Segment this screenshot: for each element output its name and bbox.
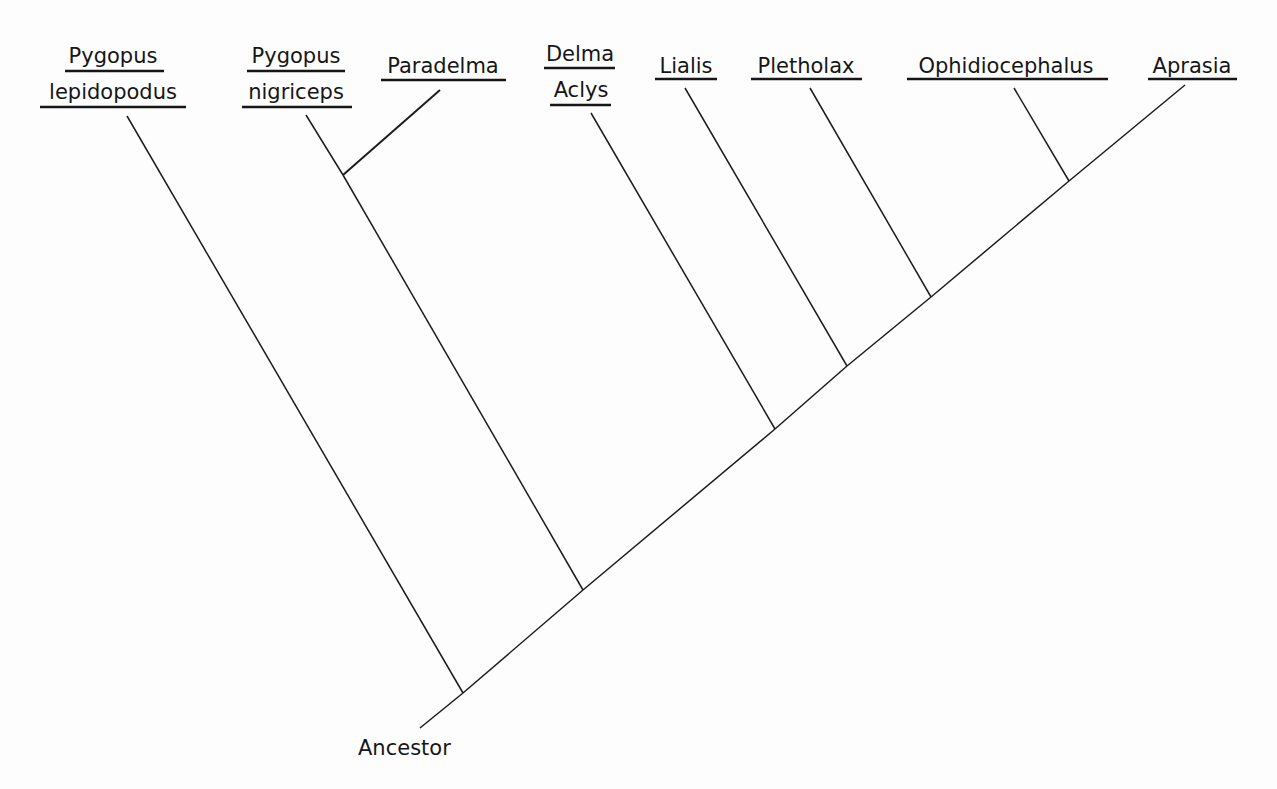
branch-paradelma: [343, 90, 440, 175]
branch-spine-2: [583, 429, 775, 590]
branch-spine-5: [931, 181, 1069, 297]
branch-nigriceps-paradelma-stem: [343, 175, 583, 590]
taxon-label-paradelma: Paradelma: [381, 54, 506, 80]
branch-lialis: [685, 88, 847, 366]
taxon-label-pygopus-nigriceps: Pygopus nigriceps: [242, 44, 352, 107]
taxon-label-delma-aclys: Delma Aclys: [544, 42, 615, 105]
taxon-label-line: Lialis: [659, 54, 712, 78]
taxon-label-line: Pletholax: [758, 54, 855, 78]
taxon-label-aprasia: Aprasia: [1148, 54, 1237, 79]
cladogram-svg: Pygopus lepidopodus Pygopus nigriceps Pa…: [0, 0, 1277, 789]
taxon-label-pygopus-lepidopodus: Pygopus lepidopodus: [40, 44, 186, 107]
branch-aprasia: [1069, 85, 1185, 181]
taxon-label-line: Pygopus: [252, 44, 341, 68]
branch-pletholax: [810, 88, 931, 297]
branch-pygopus-nigriceps: [306, 115, 343, 175]
taxon-label-lialis: Lialis: [655, 54, 717, 79]
branch-spine-3: [775, 366, 847, 429]
branch-ophidiocephalus: [1014, 88, 1069, 181]
taxon-label-line: lepidopodus: [49, 80, 177, 104]
taxon-label-pletholax: Pletholax: [751, 54, 862, 79]
taxon-label-line: Delma: [546, 42, 614, 66]
taxon-label-line: Paradelma: [387, 54, 499, 78]
branch-root: [420, 693, 463, 728]
taxon-label-line: Aclys: [554, 78, 609, 102]
taxon-label-line: Aprasia: [1153, 54, 1232, 78]
taxon-label-line: Pygopus: [69, 44, 158, 68]
taxon-label-line: nigriceps: [248, 80, 344, 104]
branch-spine-1: [463, 590, 583, 693]
branch-pygopus-lepidopodus: [127, 116, 463, 693]
taxon-label-line: Ophidiocephalus: [918, 54, 1093, 78]
branches: [127, 85, 1185, 728]
branch-spine-4: [847, 297, 931, 366]
taxon-label-ophidiocephalus: Ophidiocephalus: [907, 54, 1108, 79]
ancestor-label: Ancestor: [358, 736, 451, 760]
cladogram-figure: Pygopus lepidopodus Pygopus nigriceps Pa…: [0, 0, 1277, 789]
branch-delma-aclys: [591, 113, 775, 429]
